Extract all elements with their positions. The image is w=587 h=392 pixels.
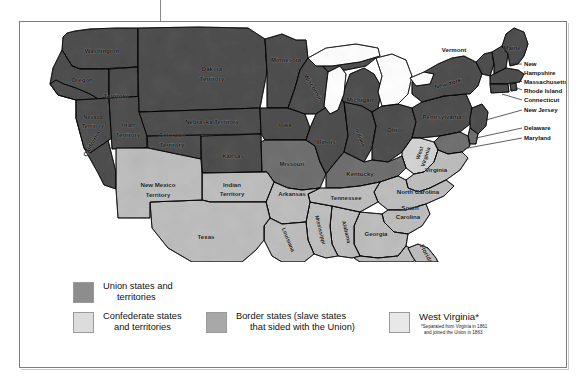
legend-swatch-border xyxy=(206,312,227,333)
label-maryland: Maryland xyxy=(524,134,551,141)
legend-swatch-confederate xyxy=(73,312,94,333)
top-tick-mark xyxy=(160,0,161,22)
label-new-mexico-territory-line2: Territory xyxy=(146,191,171,198)
label-utah-territory-line1: Utah xyxy=(121,121,135,128)
label-rhode-island: Rhode Island xyxy=(524,87,563,94)
label-kentucky: Kentucky xyxy=(346,170,374,177)
map-legend: Union states and territories Confederate… xyxy=(20,270,566,368)
label-massachusetts: Massachusetts xyxy=(524,78,566,85)
label-iowa: Iowa xyxy=(278,121,292,128)
legend-label-border: Border states (slave states that sided w… xyxy=(236,311,355,334)
legend-swatch-union xyxy=(73,282,94,303)
label-indian-territory-line1: Indian xyxy=(223,181,241,188)
legend-label-west-virginia: West Virginia* *Separated from Virginia … xyxy=(419,311,487,336)
label-new-hampshire-line2: Hampshire xyxy=(524,69,556,76)
legend-union-line2: territories xyxy=(103,292,173,303)
label-colorado-territory-line1: Colorado xyxy=(159,131,186,138)
label-kansas: Kansas xyxy=(222,152,244,159)
state-texas xyxy=(150,200,270,262)
label-dakota-territory-line1: Dakota xyxy=(202,65,223,72)
label-connecticut: Connecticut xyxy=(524,96,559,103)
label-texas: Texas xyxy=(198,233,215,240)
label-indian-territory-line2: Territory xyxy=(220,190,245,197)
label-north-carolina: North Carolina xyxy=(397,188,440,195)
label-utah-territory-line2: Territory xyxy=(116,131,141,138)
label-virginia: Virginia xyxy=(425,166,448,173)
leader-new-jersey xyxy=(486,110,522,120)
legend-item-west-virginia: West Virginia* *Separated from Virginia … xyxy=(389,311,487,336)
legend-label-union: Union states and territories xyxy=(103,281,173,304)
us-civil-war-map: Washington Territory Oregon California N… xyxy=(20,22,566,262)
label-dakota-territory-line2: Territory xyxy=(200,75,225,82)
label-missouri: Missouri xyxy=(279,160,304,167)
label-nebraska-territory: Nebraska Territory xyxy=(185,118,239,125)
label-pennsylvania: Pennsylvania xyxy=(423,113,463,120)
map-canvas: Washington Territory Oregon California N… xyxy=(20,22,566,262)
label-oregon: Oregon xyxy=(71,76,93,83)
legend-west-virginia-title: West Virginia* xyxy=(419,311,479,322)
legend-confederate-line2: and territories xyxy=(103,322,182,333)
state-connecticut xyxy=(490,84,509,93)
label-minnesota: Minnesota xyxy=(271,56,302,63)
lake-huron-erie xyxy=(376,54,412,106)
leader-rhode-island xyxy=(517,88,522,90)
state-rhode-island xyxy=(510,83,517,91)
label-nevada-territory-line1: Nevada xyxy=(83,114,104,120)
label-colorado-territory-line2: Territory xyxy=(160,141,185,148)
legend-item-union: Union states and territories xyxy=(73,281,173,304)
label-delaware: Delaware xyxy=(524,124,551,131)
label-illinois: Illinois xyxy=(316,138,336,145)
legend-border-line2: that sided with the Union) xyxy=(236,322,355,333)
label-washington-territory-line1: Washington xyxy=(85,47,120,54)
figure-page: Washington Territory Oregon California N… xyxy=(0,0,587,392)
legend-item-confederate: Confederate states and territories xyxy=(73,311,182,334)
label-georgia: Georgia xyxy=(364,230,388,237)
legend-item-border: Border states (slave states that sided w… xyxy=(206,311,355,334)
label-new-jersey: New Jersey xyxy=(524,106,558,113)
label-new-hampshire-line1: New xyxy=(524,60,537,67)
label-michigan: Michigan xyxy=(347,96,374,103)
label-new-mexico-territory-line1: New Mexico xyxy=(141,181,176,188)
label-maine: Maine xyxy=(503,44,521,51)
leader-connecticut xyxy=(502,94,522,100)
legend-confederate-line1: Confederate states xyxy=(103,311,182,321)
label-washington-territory-line2: Territory xyxy=(104,92,129,99)
label-nevada-territory-line2: Territory xyxy=(82,123,105,129)
legend-west-virginia-note-line2: and joined the Union in 1863 xyxy=(419,330,487,336)
legend-border-line1: Border states (slave states xyxy=(236,311,346,321)
label-tennessee: Tennessee xyxy=(330,194,362,201)
map-figure-frame: Washington Territory Oregon California N… xyxy=(19,21,567,368)
legend-union-line1: Union states and xyxy=(103,281,173,291)
label-ohio: Ohio xyxy=(387,126,401,133)
label-arkansas: Arkansas xyxy=(278,190,306,197)
label-vermont: Vermont xyxy=(442,46,466,53)
label-south-carolina-line2: Carolina xyxy=(396,213,421,220)
legend-label-confederate: Confederate states and territories xyxy=(103,311,182,334)
label-south-carolina-line1: South xyxy=(401,204,419,211)
legend-swatch-west-virginia xyxy=(389,312,410,333)
